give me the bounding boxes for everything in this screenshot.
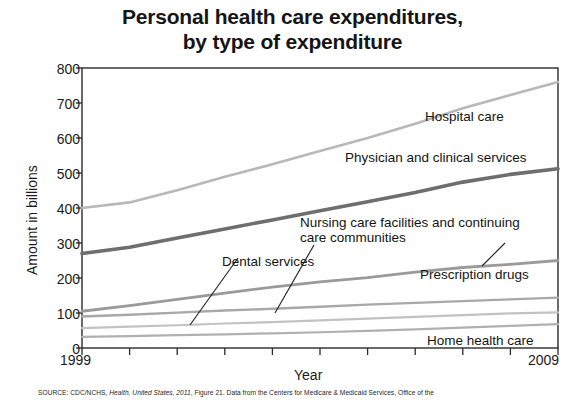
source-publication: Health, United States, 2011 [109, 389, 191, 396]
y-tick-label-600: 600 [38, 131, 80, 147]
source-suffix: , Figure 21. Data from the Centers for M… [191, 389, 434, 396]
series-label-home-health-care: Home health care [427, 334, 534, 348]
series-label-prescription-drugs: Prescription drugs [420, 268, 529, 282]
y-tick-label-200: 200 [38, 271, 80, 287]
series-label-nursing-care-line-1: Nursing care facilities and continuing [300, 216, 520, 230]
y-tick-label-100: 100 [38, 306, 80, 322]
y-tick-label-300: 300 [38, 236, 80, 252]
x-tick-label-1999: 1999 [60, 352, 91, 368]
series-label-dental-services: Dental services [222, 255, 314, 269]
leader-prescription-drugs [482, 243, 505, 266]
chart-figure: Personal health care expenditures, by ty… [0, 0, 585, 411]
y-tick-label-700: 700 [38, 96, 80, 112]
series-line-hospital-care [82, 82, 558, 208]
series-label-physician-and-clinical-services: Physician and clinical services [345, 151, 527, 165]
series-label-hospital-care: Hospital care [425, 110, 504, 124]
series-label-nursing-care-line-2: care communities [300, 231, 406, 245]
y-tick-label-500: 500 [38, 166, 80, 182]
y-tick-label-800: 800 [38, 61, 80, 77]
y-axis-title: Amount in billions [24, 165, 40, 275]
chart-canvas [0, 0, 585, 411]
y-tick-label-400: 400 [38, 201, 80, 217]
x-tick-label-2009: 2009 [528, 352, 559, 368]
source-prefix: SOURCE: CDC/NCHS, [38, 389, 109, 396]
x-axis-title: Year [294, 367, 322, 383]
source-note: SOURCE: CDC/NCHS, Health, United States,… [38, 389, 578, 397]
plot-area: 0 100 200 300 400 500 600 700 800 Amount… [0, 0, 585, 411]
